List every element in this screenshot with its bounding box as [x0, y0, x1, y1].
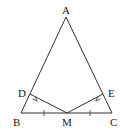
label-c: C	[110, 116, 117, 128]
label-d: D	[18, 87, 26, 99]
segment-ab	[21, 17, 66, 113]
geometry-diagram: A B C M D E	[0, 0, 125, 137]
segment-md	[30, 94, 67, 113]
label-a: A	[62, 4, 70, 16]
label-b: B	[13, 116, 20, 128]
segment-ac	[66, 17, 112, 113]
label-m: M	[62, 116, 72, 128]
label-e: E	[108, 87, 115, 99]
